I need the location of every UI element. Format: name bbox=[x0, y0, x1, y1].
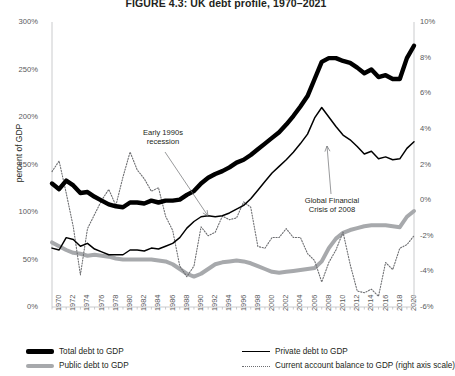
legend-item-public-debt: Public debt to GDP bbox=[26, 361, 129, 370]
legend-swatch-public-debt-icon bbox=[26, 361, 54, 370]
annotation-line-2: Crisis of 2008 bbox=[288, 205, 376, 214]
annotation-line-2: recession bbox=[128, 137, 198, 146]
legend-item-private-debt: Private debt to GDP bbox=[242, 347, 348, 356]
legend-swatch-current-account-icon bbox=[242, 361, 270, 370]
annotation-line-1: Global Financial bbox=[288, 196, 376, 205]
annotation-line-1: Early 1990s bbox=[128, 128, 198, 137]
legend-swatch-private-debt-icon bbox=[242, 347, 270, 356]
series-line-current-account-balance-to-gdp-right-axis-scale bbox=[52, 152, 414, 296]
legend-label-private-debt: Private debt to GDP bbox=[275, 347, 348, 356]
series-layer bbox=[52, 46, 414, 297]
legend-swatch-total-debt-icon bbox=[26, 347, 54, 356]
legend-label-total-debt: Total debt to GDP bbox=[59, 347, 124, 356]
annotation-global-financial-crisis: Global Financial Crisis of 2008 bbox=[288, 196, 376, 215]
chart-legend: Total debt to GDP Public debt to GDP Pri… bbox=[0, 344, 452, 376]
legend-item-current-account: Current account balance to GDP (right ax… bbox=[242, 361, 455, 370]
series-line-private-debt-to-gdp bbox=[52, 108, 414, 255]
legend-label-public-debt: Public debt to GDP bbox=[59, 361, 129, 370]
series-line-total-debt-to-gdp bbox=[52, 46, 414, 208]
legend-label-current-account: Current account balance to GDP (right ax… bbox=[275, 361, 455, 370]
series-line-public-debt-to-gdp bbox=[52, 211, 414, 277]
annotation-early-1990s-recession: Early 1990s recession bbox=[128, 128, 198, 147]
legend-item-total-debt: Total debt to GDP bbox=[26, 347, 124, 356]
leader-line-global-financial-crisis bbox=[327, 146, 331, 194]
